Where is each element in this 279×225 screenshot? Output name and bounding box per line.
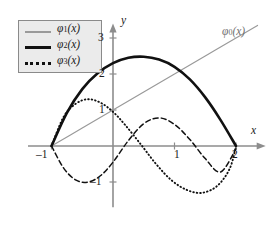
legend-entry-phi1: φ1(x) xyxy=(23,23,99,39)
legend-label-phi1: φ1(x) xyxy=(57,22,80,34)
legend-entry-phi3: φ3(x) xyxy=(23,55,99,71)
y-tick-1: 1 xyxy=(99,103,105,115)
legend-swatch-phi2 xyxy=(25,46,51,49)
x-tick-2: 2 xyxy=(232,148,238,160)
x-axis-label: x xyxy=(251,124,256,136)
y-tick-neg1: –1 xyxy=(90,175,102,187)
y-tick-3: 3 xyxy=(98,31,104,43)
legend-swatch-phi1 xyxy=(25,31,51,33)
legend-entry-phi2: φ2(x) xyxy=(23,39,99,55)
y-axis-label: y xyxy=(121,14,126,26)
legend-label-phi3: φ3(x) xyxy=(57,54,80,66)
figure-root: φ1(x) φ2(x) φ3(x) y x 3 2 1 –1 –1 1 2 φ0… xyxy=(0,0,279,225)
x-tick-neg1: –1 xyxy=(36,148,48,160)
x-tick-1: 1 xyxy=(174,148,180,160)
curve-label-phi0: φ0(x) xyxy=(222,25,245,37)
legend-label-phi2: φ2(x) xyxy=(57,38,80,50)
curve-x xyxy=(52,118,237,182)
legend-box: φ1(x) φ2(x) φ3(x) xyxy=(18,20,102,73)
y-tick-2: 2 xyxy=(99,67,105,79)
legend-swatch-phi3 xyxy=(25,62,51,65)
